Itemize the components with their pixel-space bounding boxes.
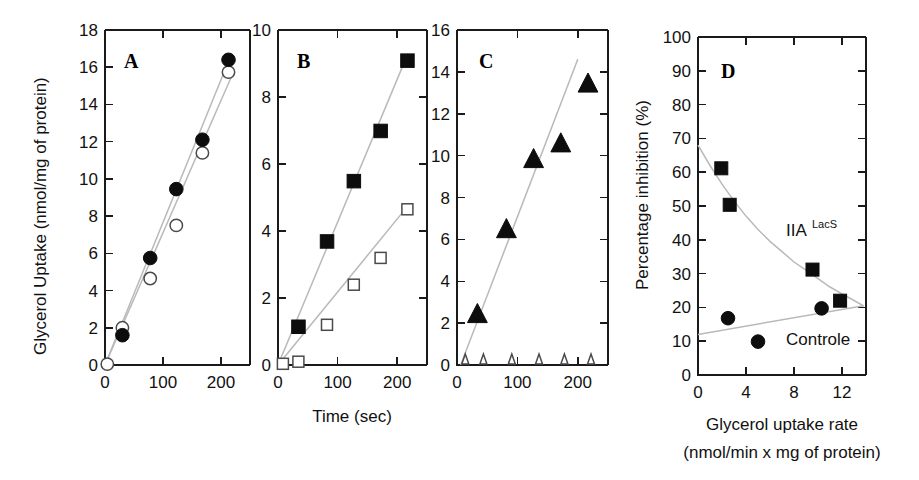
panel-d-annotation-iialacs: IIA LacS	[786, 218, 837, 240]
panel-c-ytick-2: 2	[441, 314, 450, 333]
panel-b-xtick-0: 0	[273, 373, 282, 392]
panel-d-ytick-0: 0	[682, 366, 691, 385]
panel-d-y-tick-labels: 0 10 20 30 40 50 60 70 80 90 100	[663, 28, 691, 385]
panel-d-ytick-10: 10	[672, 332, 691, 351]
figure-root: Glycerol Uptake (nmol/mg of protein) 0 2	[0, 0, 919, 480]
panel-c: 0 2 4 6 8 10 12 14 16 0 100 2	[431, 21, 608, 392]
panel-c-y-tick-labels: 0 2 4 6 8 10 12 14 16	[431, 21, 450, 375]
panel-d-annotation-iialacs-text: IIA	[786, 221, 807, 240]
panel-d-ytick-70: 70	[672, 129, 691, 148]
panel-d-xtick-0: 0	[693, 383, 702, 402]
panel-b-ytick-2: 2	[262, 289, 271, 308]
panel-d-y-axis-title: Percentage inhibition (%)	[633, 100, 652, 290]
panel-d-x-ticks	[698, 37, 842, 375]
panel-a-ytick-2: 2	[89, 319, 98, 338]
panel-c-letter: C	[479, 50, 493, 72]
panel-d-x-tick-labels: 0 4 8 12	[693, 383, 851, 402]
panel-a-letter: A	[124, 50, 139, 72]
panel-c-series-open-triangle	[462, 354, 595, 364]
panel-b-trendline-open	[278, 206, 408, 365]
panel-b-xtick-200: 200	[383, 373, 411, 392]
panel-a-xtick-0: 0	[100, 373, 109, 392]
panel-d-ytick-30: 30	[672, 265, 691, 284]
panel-c-ytick-12: 12	[431, 105, 450, 124]
panel-b-ytick-0: 0	[262, 356, 271, 375]
multi-panel-figure: Glycerol Uptake (nmol/mg of protein) 0 2	[0, 0, 919, 480]
panel-a-ytick-10: 10	[79, 170, 98, 189]
panel-b-axis-frame	[278, 30, 427, 365]
panel-a-xtick-100: 100	[149, 373, 177, 392]
panel-d-ytick-90: 90	[672, 62, 691, 81]
panel-a-ytick-8: 8	[89, 207, 98, 226]
panel-a-x-tick-labels: 0 100 200	[100, 373, 235, 392]
panel-d-ytick-60: 60	[672, 163, 691, 182]
panel-d-xtick-12: 12	[833, 383, 852, 402]
shared-x-axis-title: Time (sec)	[312, 407, 392, 426]
panel-c-ytick-10: 10	[431, 147, 450, 166]
panel-c-ytick-4: 4	[441, 272, 450, 291]
panel-b: 0 2 4 6 8 10 0 100 200 B	[252, 21, 427, 426]
panel-b-ytick-10: 10	[252, 21, 271, 40]
panel-c-ytick-6: 6	[441, 230, 450, 249]
panel-a-ytick-12: 12	[79, 133, 98, 152]
panel-d-annotation-controle: Controle	[786, 330, 850, 349]
panel-a-x-ticks	[105, 30, 221, 365]
panel-d-xtick-4: 4	[741, 383, 750, 402]
panel-d-annotation-iialacs-superscript: LacS	[812, 218, 837, 230]
panel-a: 0 2 4 6 8 10 12 14 16 18 0	[79, 21, 250, 392]
panel-c-x-tick-labels: 0 100 200	[452, 373, 592, 392]
panel-d-x-axis-title-line2: (nmol/min x mg of protein)	[683, 443, 880, 462]
panel-c-xtick-200: 200	[564, 373, 592, 392]
panel-a-ytick-14: 14	[79, 95, 98, 114]
panel-a-y-ticks	[105, 30, 113, 365]
panel-b-ytick-6: 6	[262, 155, 271, 174]
panel-d-ytick-80: 80	[672, 96, 691, 115]
panel-a-xtick-200: 200	[207, 373, 235, 392]
panel-b-ytick-8: 8	[262, 88, 271, 107]
panel-b-y-tick-labels: 0 2 4 6 8 10	[252, 21, 271, 375]
panel-c-ytick-16: 16	[431, 21, 450, 40]
panel-d-letter: D	[721, 60, 735, 82]
panel-c-xtick-0: 0	[452, 373, 461, 392]
panel-a-ytick-4: 4	[89, 282, 98, 301]
panel-d: Percentage inhibition (%)	[633, 28, 881, 462]
panel-c-ytick-14: 14	[431, 63, 450, 82]
panel-b-xtick-100: 100	[323, 373, 351, 392]
panel-d-ytick-20: 20	[672, 298, 691, 317]
panel-d-ytick-40: 40	[672, 231, 691, 250]
panel-a-ytick-0: 0	[89, 356, 98, 375]
panel-a-trendline-filled	[105, 54, 231, 365]
panel-b-ytick-4: 4	[262, 222, 271, 241]
panel-b-x-ticks	[278, 30, 397, 365]
panel-b-series-filled-square	[292, 54, 415, 334]
panel-b-y-ticks	[278, 30, 427, 365]
panel-c-ytick-8: 8	[441, 189, 450, 208]
panel-a-ytick-6: 6	[89, 244, 98, 263]
panel-c-xtick-100: 100	[503, 373, 531, 392]
panel-d-xtick-8: 8	[789, 383, 798, 402]
panel-d-ytick-50: 50	[672, 197, 691, 216]
panel-a-y-tick-labels: 0 2 4 6 8 10 12 14 16 18	[79, 21, 98, 375]
panel-a-ytick-18: 18	[79, 21, 98, 40]
panel-b-trendline-filled	[278, 54, 408, 365]
panel-c-series-filled-triangle	[468, 73, 598, 323]
panel-b-x-tick-labels: 0 100 200	[273, 373, 411, 392]
panel-d-ytick-100: 100	[663, 28, 691, 47]
panel-a-ytick-16: 16	[79, 58, 98, 77]
panel-a-y-axis-title: Glycerol Uptake (nmol/mg of protein)	[31, 77, 50, 355]
panel-b-series-open-square	[277, 204, 413, 369]
panel-d-x-axis-title-line1: Glycerol uptake rate	[706, 415, 858, 434]
panel-b-letter: B	[297, 50, 310, 72]
panel-c-ytick-0: 0	[441, 356, 450, 375]
panel-a-series-open-circle	[101, 66, 235, 370]
